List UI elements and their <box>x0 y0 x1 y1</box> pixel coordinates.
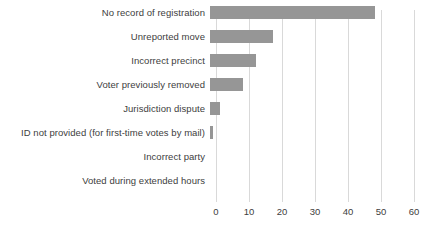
bar-track <box>210 72 437 96</box>
category-label: Voter previously removed <box>0 79 210 90</box>
category-label: Jurisdiction dispute <box>0 103 210 114</box>
x-axis: 0 10 20 30 40 50 60 <box>216 203 414 223</box>
bar-unreported-move <box>210 30 273 43</box>
bar-row: Voter previously removed <box>0 72 437 96</box>
bar-row: ID not provided (for first-time votes by… <box>0 120 437 144</box>
bar-track <box>210 120 437 144</box>
category-label: No record of registration <box>0 7 210 18</box>
category-label: ID not provided (for first-time votes by… <box>0 127 210 138</box>
category-label: Unreported move <box>0 31 210 42</box>
bar-track <box>210 168 437 192</box>
bar-no-record-of-registration <box>210 6 375 19</box>
category-label: Voted during extended hours <box>0 175 210 186</box>
bar-row: No record of registration <box>0 0 437 24</box>
x-tick-label: 0 <box>213 206 218 217</box>
x-tick-label: 40 <box>343 206 354 217</box>
bar-chart: No record of registration Unreported mov… <box>0 0 437 243</box>
bar-row: Incorrect party <box>0 144 437 168</box>
bar-row: Incorrect precinct <box>0 48 437 72</box>
bar-track <box>210 24 437 48</box>
category-label: Incorrect party <box>0 151 210 162</box>
bar-row: Voted during extended hours <box>0 168 437 192</box>
bar-incorrect-precinct <box>210 54 256 67</box>
bar-jurisdiction-dispute <box>210 102 220 115</box>
x-tick-label: 60 <box>409 206 420 217</box>
x-tick-label: 50 <box>376 206 387 217</box>
bar-row: Jurisdiction dispute <box>0 96 437 120</box>
x-tick-label: 30 <box>310 206 321 217</box>
bar-track <box>210 48 437 72</box>
bar-rows: No record of registration Unreported mov… <box>0 0 437 192</box>
bar-voter-previously-removed <box>210 78 243 91</box>
bar-track <box>210 144 437 168</box>
x-tick-label: 20 <box>277 206 288 217</box>
bar-track <box>210 96 437 120</box>
bar-id-not-provided <box>210 126 213 139</box>
bar-row: Unreported move <box>0 24 437 48</box>
category-label: Incorrect precinct <box>0 55 210 66</box>
x-tick-label: 10 <box>244 206 255 217</box>
bar-track <box>210 0 437 24</box>
